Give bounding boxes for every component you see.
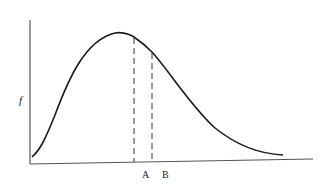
- marker-b-label: B: [162, 169, 169, 180]
- y-axis-label: f: [19, 94, 24, 106]
- marker-a-label: A: [142, 169, 150, 180]
- distribution-curve: [32, 33, 283, 157]
- x-axis: [30, 159, 313, 164]
- distribution-chart: f A B: [0, 0, 327, 184]
